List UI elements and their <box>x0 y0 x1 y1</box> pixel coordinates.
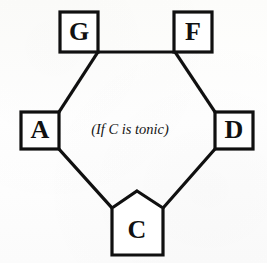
node-g-label: G <box>69 17 89 46</box>
node-f[interactable]: F <box>174 12 212 52</box>
diagram-canvas: G F A D C (If C is tonic) <box>0 0 267 263</box>
diagram-caption: (If C is tonic) <box>91 121 169 138</box>
edge-g-to-a <box>59 52 98 112</box>
edge-a-to-c <box>59 149 112 208</box>
edge-d-to-c <box>163 149 215 208</box>
node-d-label: D <box>225 115 244 144</box>
node-g[interactable]: G <box>60 12 98 52</box>
node-a-label: A <box>31 115 50 144</box>
chord-relationship-diagram: G F A D C (If C is tonic) <box>0 0 267 263</box>
node-d[interactable]: D <box>215 112 253 149</box>
node-c-label: C <box>128 215 147 244</box>
node-c[interactable]: C <box>112 191 163 255</box>
node-a[interactable]: A <box>21 112 59 149</box>
edge-f-to-d <box>175 52 215 112</box>
node-f-label: F <box>185 17 201 46</box>
